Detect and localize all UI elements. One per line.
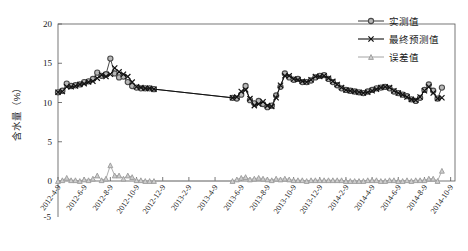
data-point-marker — [344, 179, 349, 184]
data-point-marker — [296, 178, 301, 183]
x-tick-label: 2014-8-9 — [405, 183, 429, 212]
data-point-marker — [352, 179, 357, 184]
data-point-marker — [287, 177, 292, 182]
data-point-marker — [147, 179, 152, 184]
moisture-forecast-chart: -505101520含水量（%）2012-4-92012-6-92012-8-9… — [0, 0, 468, 251]
y-tick-label: -5 — [44, 212, 52, 222]
data-point-marker — [108, 163, 113, 168]
x-tick-label: 2013-6-9 — [222, 183, 246, 212]
data-point-marker — [313, 178, 318, 183]
x-tick-label: 2014-6-9 — [379, 183, 403, 212]
data-point-marker — [330, 178, 335, 183]
data-point-marker — [130, 175, 135, 180]
data-point-marker — [422, 178, 427, 183]
y-axis-title: 含水量（%） — [11, 83, 22, 141]
data-point-marker — [357, 179, 362, 184]
data-point-marker — [339, 178, 344, 183]
data-point-marker — [300, 178, 305, 183]
data-point-marker — [405, 178, 410, 183]
data-point-marker — [309, 178, 314, 183]
y-tick-label: 10 — [43, 98, 53, 108]
data-point-marker — [274, 176, 279, 181]
legend: 实测值最终预测值误差值 — [358, 16, 439, 63]
legend-label-2: 最终预测值 — [389, 34, 439, 45]
legend-label-1: 实测值 — [389, 16, 419, 27]
data-point-marker — [335, 178, 340, 183]
data-point-marker — [387, 178, 392, 183]
data-point-marker — [256, 175, 261, 180]
data-point-marker — [69, 178, 74, 183]
data-point-marker — [95, 173, 100, 178]
data-point-marker — [440, 168, 445, 173]
data-point-marker — [413, 178, 418, 183]
data-point-marker — [282, 176, 287, 181]
data-point-marker — [77, 179, 82, 184]
data-point-marker — [431, 176, 436, 181]
data-point-marker — [138, 178, 143, 183]
data-point-marker — [435, 179, 440, 184]
data-point-marker — [112, 173, 117, 178]
data-point-marker — [291, 178, 296, 183]
series-1 — [55, 56, 444, 110]
data-point-marker — [73, 178, 78, 183]
x-tick-label: 2014-4-9 — [353, 183, 377, 212]
data-point-marker — [125, 173, 130, 178]
chart-canvas: -505101520含水量（%）2012-4-92012-6-92012-8-9… — [0, 0, 468, 251]
data-point-marker — [269, 178, 274, 183]
x-tick-label: 2012-8-9 — [91, 183, 115, 212]
data-point-marker — [374, 178, 379, 183]
data-point-marker — [365, 178, 370, 183]
data-point-marker — [234, 177, 239, 182]
x-tick-label: 2012-4-9 — [38, 183, 62, 212]
data-point-marker — [439, 85, 444, 90]
y-tick-label: 5 — [48, 137, 53, 147]
data-point-marker — [64, 175, 69, 180]
data-point-marker — [322, 178, 327, 183]
data-point-marker — [230, 179, 235, 184]
data-point-marker — [86, 178, 91, 183]
data-point-marker — [82, 177, 87, 182]
x-tick-label: 2013-10-9 — [272, 183, 298, 215]
data-point-marker — [152, 179, 157, 184]
data-point-marker — [143, 179, 148, 184]
data-point-marker — [108, 56, 113, 61]
data-point-marker — [326, 178, 331, 183]
data-point-marker — [265, 177, 270, 182]
y-tick-label: 0 — [48, 176, 53, 186]
x-tick-label: 2013-8-9 — [248, 183, 272, 212]
x-tick-label: 2014-2-9 — [326, 183, 350, 212]
data-point-marker — [370, 178, 375, 183]
y-tick-label: 15 — [43, 58, 53, 68]
x-tick-label: 2013-4-9 — [195, 183, 219, 212]
data-point-marker — [378, 179, 383, 184]
data-point-marker — [396, 179, 401, 184]
data-point-marker — [369, 55, 374, 60]
data-point-marker — [104, 176, 109, 181]
data-point-marker — [426, 176, 431, 181]
data-point-marker — [348, 179, 353, 184]
data-point-marker — [243, 175, 248, 180]
x-tick-label: 2013-12-9 — [298, 183, 324, 215]
data-point-marker — [261, 176, 266, 181]
x-tick-label: 2012-6-9 — [65, 183, 89, 212]
data-point-marker — [317, 178, 322, 183]
data-point-marker — [418, 178, 423, 183]
data-point-marker — [117, 173, 122, 178]
data-point-marker — [392, 178, 397, 183]
series-3 — [56, 163, 445, 184]
legend-label-3: 误差值 — [389, 52, 419, 63]
x-tick-label: 2012-12-9 — [141, 183, 167, 215]
y-axis-title-text: 含水量（%） — [11, 83, 22, 141]
x-tick-label: 2014-10-9 — [429, 183, 455, 215]
y-tick-label: 20 — [43, 19, 53, 29]
data-point-marker — [368, 18, 373, 23]
x-tick-label: 2013-2-9 — [169, 183, 193, 212]
x-tick-label: 2012-10-9 — [115, 183, 141, 215]
